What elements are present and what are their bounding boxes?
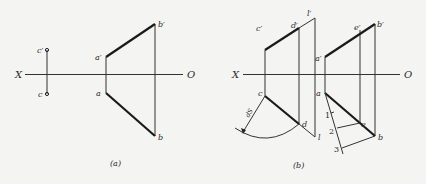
axis-o-label: O	[187, 69, 195, 80]
panel-a: X O c′ c a′ a b′ b (a)	[14, 20, 195, 168]
label-l-prime: l′	[307, 9, 312, 18]
label-c: c	[258, 89, 263, 98]
line-a-prime-b-prime	[325, 24, 375, 57]
line-c-prime-d-prime	[265, 28, 299, 50]
label-b-prime: b′	[377, 20, 384, 29]
label-b: b	[158, 133, 163, 142]
label-d-prime: d′	[291, 21, 298, 30]
label-e-prime: e′	[354, 23, 361, 32]
line-cd	[265, 96, 299, 124]
label-a: a	[316, 89, 321, 98]
label-b: b	[378, 133, 383, 142]
label-d: d	[302, 120, 307, 129]
label-l: l	[318, 133, 321, 142]
caption-b: (b)	[293, 161, 304, 170]
division-line-2e	[337, 123, 360, 128]
tick-1	[331, 112, 334, 113]
label-c-prime: c′	[256, 24, 262, 33]
line-ab	[106, 93, 155, 136]
label-c-prime: c′	[37, 46, 43, 55]
projection-diagram: X O c′ c a′ a b′ b (a) X O	[0, 0, 426, 184]
caption-a: (a)	[110, 159, 121, 168]
axis-x-label: X	[14, 69, 23, 80]
division-line-3b	[342, 136, 375, 148]
label-ds: dS	[244, 107, 256, 119]
label-c: c	[38, 90, 43, 99]
panel-b: X O c′ d′ l′ c d l dS a′ e′ b′	[231, 9, 412, 170]
label-b-prime: b′	[158, 20, 165, 29]
axis-o-label: O	[404, 69, 412, 80]
label-div-3: 3	[334, 145, 339, 154]
axis-x-label: X	[231, 69, 240, 80]
label-div-2: 2	[329, 127, 334, 136]
label-a-prime: a′	[95, 53, 102, 62]
line-a-prime-b-prime	[106, 24, 155, 57]
label-e: e	[361, 120, 366, 129]
label-a: a	[96, 89, 101, 98]
label-a-prime: a′	[315, 54, 322, 63]
label-div-1: 1	[325, 111, 330, 120]
line-d-prime-l-prime	[299, 18, 315, 28]
